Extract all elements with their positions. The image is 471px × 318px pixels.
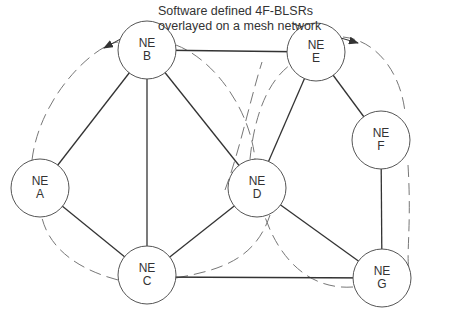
node-label-g: NEG xyxy=(362,265,402,291)
node-id: B xyxy=(127,50,167,63)
mesh-links xyxy=(40,50,382,278)
node-label-f: NEF xyxy=(361,127,401,153)
node-id: F xyxy=(361,140,401,153)
caption-line-1: Software defined 4F-BLSRs xyxy=(158,4,321,19)
nodes xyxy=(11,21,411,307)
caption-line-2: overlayed on a mesh network xyxy=(158,19,321,34)
node-label-e: NEE xyxy=(296,39,336,65)
node-label-b: NEB xyxy=(127,37,167,63)
node-id: C xyxy=(127,275,167,288)
node-label-a: NEA xyxy=(20,175,60,201)
node-id: G xyxy=(362,278,402,291)
node-label-c: NEC xyxy=(127,262,167,288)
node-label-d: NED xyxy=(237,175,277,201)
node-id: E xyxy=(296,52,336,65)
node-id: A xyxy=(20,188,60,201)
node-id: D xyxy=(237,188,277,201)
diagram-caption: Software defined 4F-BLSRs overlayed on a… xyxy=(158,4,321,34)
